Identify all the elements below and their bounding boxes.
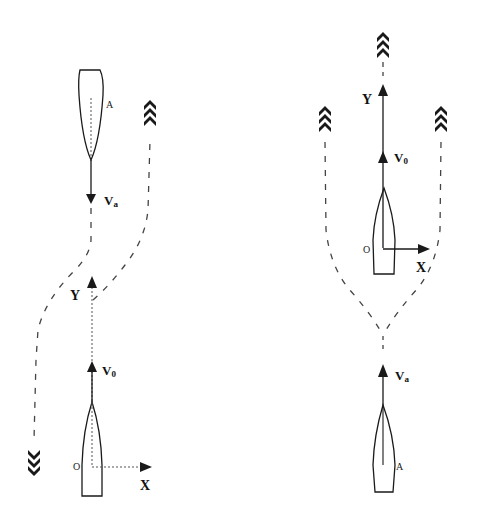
x-axis-label: X — [140, 478, 150, 493]
ship-a-label: A — [396, 461, 404, 472]
own-ship-hull — [373, 188, 395, 274]
velocity-0-label: V0 — [102, 363, 116, 379]
track-start-chevrons-icon — [144, 100, 156, 126]
ship-a-label: A — [106, 99, 114, 110]
right-branch-chevrons-icon — [435, 106, 447, 132]
velocity-a-arrowhead-icon — [378, 364, 388, 377]
velocity-0-arrowhead-icon — [87, 361, 97, 372]
origin-label: O — [363, 244, 370, 255]
velocity-0-label: V0 — [394, 150, 408, 166]
x-axis-arrowhead-icon — [140, 462, 152, 472]
origin-label: O — [73, 461, 80, 472]
velocity-a-arrowhead-icon — [86, 194, 96, 204]
encounter-diagram: A Va Y V0 X — [0, 0, 492, 523]
y-axis-label: Y — [362, 92, 372, 107]
own-ship-track — [93, 140, 150, 300]
left-branch-chevrons-icon — [319, 106, 331, 132]
y-axis-label: Y — [70, 288, 80, 303]
ship-a-hull — [373, 405, 395, 492]
ship-a-track — [34, 208, 91, 440]
right-scenario: Y V0 X O Va — [319, 32, 447, 492]
track-end-chevrons-icon — [28, 450, 40, 476]
y-track-chevrons-icon — [377, 32, 389, 58]
left-branch-track — [325, 142, 380, 330]
y-axis-arrowhead-icon — [378, 84, 388, 96]
y-axis-arrowhead-icon — [87, 276, 97, 288]
x-axis-label: X — [416, 260, 426, 275]
velocity-0-arrowhead-icon — [378, 151, 388, 163]
velocity-a-label: Va — [395, 368, 409, 384]
x-axis-arrowhead-icon — [418, 244, 430, 254]
left-scenario: A Va Y V0 X — [28, 70, 156, 496]
ship-a-hull — [79, 70, 104, 160]
velocity-a-label: Va — [104, 193, 118, 209]
